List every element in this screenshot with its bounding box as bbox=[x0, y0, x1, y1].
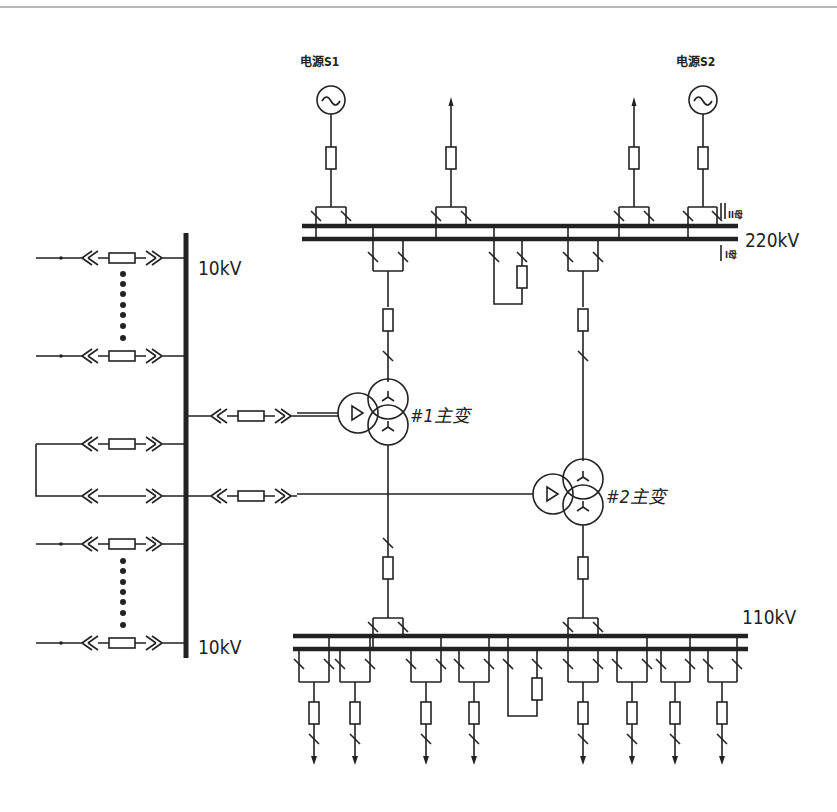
svg-text:电源S2: 电源S2 bbox=[676, 54, 715, 69]
lv-feeder-bottom bbox=[36, 636, 186, 650]
mv-feeders bbox=[294, 636, 742, 765]
bus-220kv bbox=[302, 226, 738, 239]
mv-feeder-6 bbox=[612, 636, 652, 765]
bus-i-label: I母 bbox=[725, 250, 737, 260]
bus-110kv bbox=[293, 636, 748, 649]
transformer-1: #1主变 bbox=[297, 379, 473, 649]
transformer-2: #2主变 bbox=[297, 459, 669, 649]
lv-feeder-3 bbox=[36, 537, 186, 551]
bay-outgoing-line-2 bbox=[614, 97, 654, 239]
lv-bus-link bbox=[36, 437, 186, 503]
lv-feeder-2 bbox=[36, 349, 186, 363]
transformer-2-label: #2主变 bbox=[606, 486, 669, 507]
lv-feeder-top bbox=[36, 251, 186, 265]
bus-220kv-label: 220kV bbox=[745, 229, 800, 251]
bus-ii-label: II母 bbox=[728, 210, 743, 220]
bus-10kv-top-label: 10kV bbox=[198, 257, 242, 279]
bay-source-s1: 电源S1 bbox=[300, 54, 351, 239]
lv-feeder-ellipsis-bottom bbox=[120, 558, 126, 628]
mv-feeder-5 bbox=[563, 649, 603, 765]
bus-110kv-label: 110kV bbox=[742, 606, 797, 628]
source-s2-label: 电源S2 bbox=[676, 54, 715, 69]
bay-t2-hv bbox=[563, 226, 603, 461]
bay-source-s2: 电源S2 bbox=[676, 54, 722, 239]
ac-wave-icon bbox=[322, 97, 340, 105]
bay-t1-hv bbox=[368, 226, 408, 382]
mv-feeder-8 bbox=[703, 636, 742, 765]
t2-hv-winding-icon bbox=[563, 459, 603, 499]
mv-feeder-3 bbox=[406, 636, 446, 765]
bus-10kv-bottom-label: 10kV bbox=[198, 636, 242, 658]
lv-cell-t2 bbox=[186, 489, 297, 503]
svg-text:电源S1: 电源S1 bbox=[300, 54, 339, 69]
bay-outgoing-line-1 bbox=[431, 97, 471, 239]
mv-feeder-1 bbox=[294, 636, 334, 765]
single-line-diagram: 220kV II母 I母 电源S1 电源S2 bbox=[0, 0, 837, 812]
mv-feeder-4 bbox=[454, 636, 494, 765]
source-s1-label: 电源S1 bbox=[300, 54, 339, 69]
mv-feeder-2 bbox=[335, 636, 375, 765]
lv-feeder-ellipsis-top bbox=[120, 271, 126, 341]
transformer-1-label: #1主变 bbox=[410, 405, 473, 426]
lv-cell-t1 bbox=[186, 409, 338, 423]
t1-hv-winding-icon bbox=[368, 379, 408, 419]
ac-wave-icon bbox=[694, 97, 712, 105]
mv-feeder-7 bbox=[656, 636, 695, 765]
